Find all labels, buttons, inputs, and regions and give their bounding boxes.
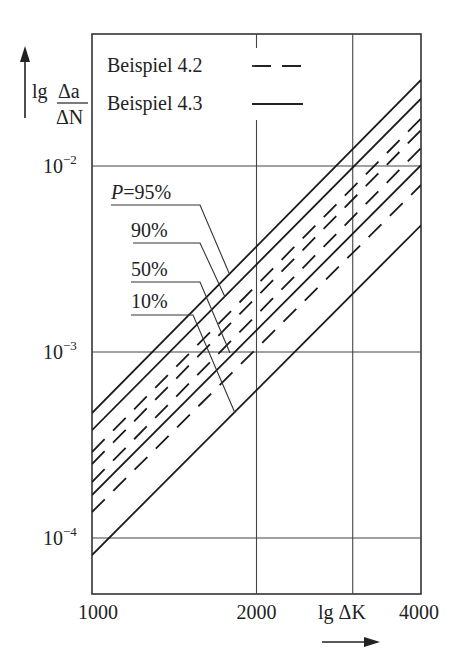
y-axis-label-numerator: Δa <box>58 80 80 102</box>
y-axis-label-prefix: lg <box>32 80 48 103</box>
annotations: P=95% 90% 50% 10% <box>110 181 235 413</box>
x-axis-label-text: lg ΔK <box>318 601 366 624</box>
y-tick-label-2: 10−4 <box>43 524 77 549</box>
crack-growth-chart: lg Δa ΔN Beispiel 4.2 Beispiel 4.3 P=95%… <box>0 0 458 663</box>
legend: Beispiel 4.2 Beispiel 4.3 <box>107 54 303 115</box>
x-tick-label-1000: 1000 <box>78 601 118 623</box>
y-axis-label: lg Δa ΔN <box>20 46 88 128</box>
annotation-p95-leader <box>111 205 229 273</box>
annotation-p90: 90% <box>131 219 168 241</box>
legend-label-dashed: Beispiel 4.2 <box>107 54 203 77</box>
y-axis-label-denominator: ΔN <box>56 106 83 128</box>
x-axis-label: lg ΔK <box>318 601 380 647</box>
x-axis-arrow-head <box>364 637 380 647</box>
y-tick-label-1: 10−3 <box>43 338 77 363</box>
x-tick-label-2000: 2000 <box>237 601 277 623</box>
grid <box>92 34 421 594</box>
x-tick-label-4000: 4000 <box>399 601 439 623</box>
annotation-p10: 10% <box>131 290 168 312</box>
annotation-p95: P=95% <box>110 181 171 203</box>
y-tick-label-0: 10−2 <box>43 152 77 177</box>
annotation-p50: 50% <box>131 258 168 280</box>
tick-labels: 10002000400010−210−310−4 <box>43 152 439 623</box>
y-axis-arrow-head <box>20 46 30 62</box>
annotation-p10-leader <box>131 315 235 413</box>
legend-label-solid: Beispiel 4.3 <box>107 92 203 115</box>
